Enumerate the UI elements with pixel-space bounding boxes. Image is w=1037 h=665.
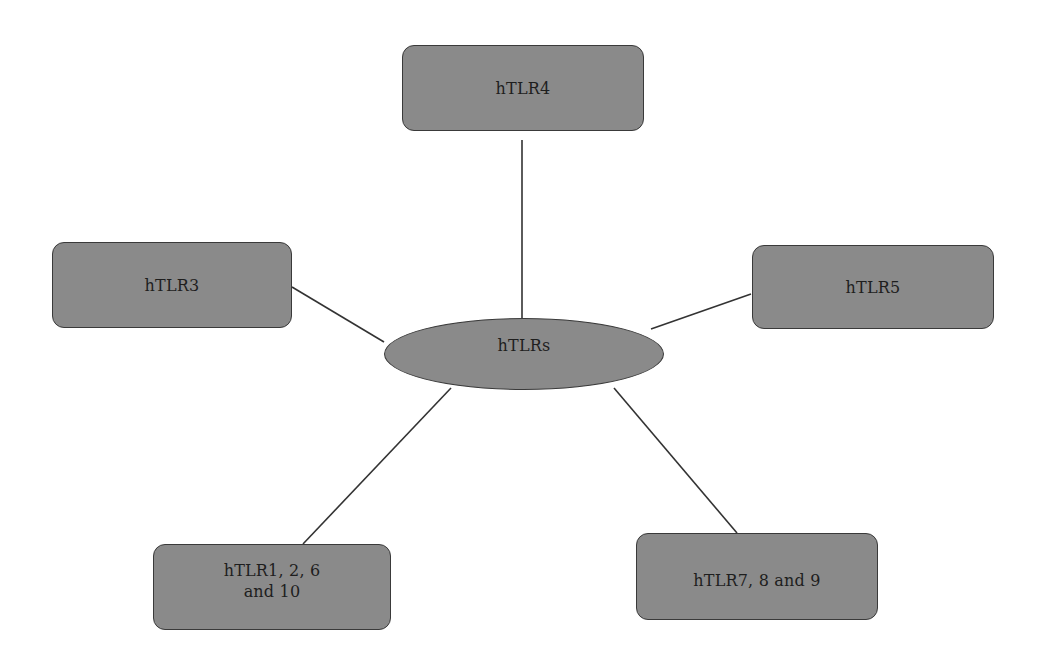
- node-htlr1-2-6-10: hTLR1, 2, 6 and 10: [153, 544, 391, 630]
- edge-hub-tlr1-2-6-10: [303, 388, 451, 544]
- edge-hub-tlr7-8-9: [614, 388, 737, 533]
- hub-htlrs: hTLRs: [384, 318, 664, 390]
- node-label: hTLR7, 8 and 9: [693, 570, 820, 591]
- node-label: hTLR4: [496, 78, 551, 99]
- tlr-diagram: hTLR4 hTLR3 hTLR5 hTLRs hTLR1, 2, 6 and …: [0, 0, 1037, 665]
- node-htlr4: hTLR4: [402, 45, 644, 131]
- node-htlr5: hTLR5: [752, 245, 994, 329]
- node-label: hTLR5: [846, 277, 901, 298]
- node-label: hTLR1, 2, 6 and 10: [224, 560, 321, 602]
- node-htlr3: hTLR3: [52, 242, 292, 328]
- node-label: hTLR3: [145, 275, 200, 296]
- edge-hub-tlr3: [292, 287, 384, 342]
- edge-hub-tlr5: [651, 294, 751, 329]
- hub-label: hTLRs: [498, 335, 551, 356]
- node-htlr7-8-9: hTLR7, 8 and 9: [636, 533, 878, 620]
